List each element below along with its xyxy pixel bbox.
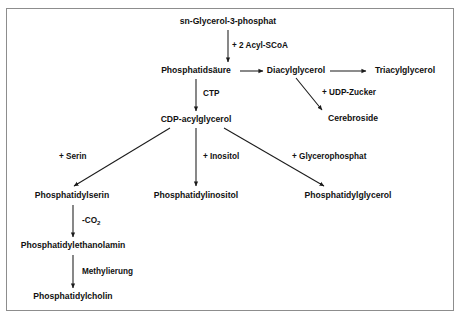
- node-phosphatidylglycerol: Phosphatidylglycerol: [305, 190, 392, 200]
- edge-label-co2-text: -CO: [82, 216, 98, 225]
- edge-label-inositol: + Inositol: [203, 152, 239, 161]
- arrow-cdp-to-phosphatidylserin: [74, 128, 170, 186]
- edge-label-glycerophosphat: + Glycerophosphat: [292, 152, 367, 161]
- node-diacylglycerol: Diacylglycerol: [267, 65, 325, 75]
- edge-label-co2: -CO2: [82, 216, 101, 226]
- node-phosphatidylcholin: Phosphatidylcholin: [33, 291, 112, 301]
- arrow-diacylglycerol-to-cerebroside: [296, 78, 322, 110]
- edge-label-ctp: CTP: [203, 89, 220, 98]
- node-phosphatidylinositol: Phosphatidylinositol: [154, 190, 239, 200]
- edge-label-serin: + Serin: [59, 152, 87, 161]
- node-phosphatidylserin: Phosphatidylserin: [35, 190, 110, 200]
- edge-label-methylierung: Methylierung: [82, 267, 133, 276]
- node-phosphatidsaeure: Phosphatidsäure: [161, 65, 231, 75]
- node-phosphatidylethanolamin: Phosphatidylethanolamin: [21, 240, 126, 250]
- edge-label-acyl-scoa: + 2 Acyl-SCoA: [232, 41, 288, 50]
- node-sn-glycerol-3-phosphat: sn-Glycerol-3-phosphat: [180, 16, 277, 26]
- node-cerebroside: Cerebroside: [328, 113, 378, 123]
- node-cdp-acylglycerol: CDP-acylglycerol: [161, 114, 232, 124]
- pathway-diagram-figure: sn-Glycerol-3-phosphat Phosphatidsäure D…: [0, 0, 463, 327]
- phospholipid-biosynthesis-diagram: sn-Glycerol-3-phosphat Phosphatidsäure D…: [0, 0, 463, 327]
- edge-label-co2-subscript: 2: [97, 219, 101, 226]
- node-triacylglycerol: Triacylglycerol: [375, 65, 435, 75]
- edge-label-udp-zucker: + UDP-Zucker: [322, 88, 377, 97]
